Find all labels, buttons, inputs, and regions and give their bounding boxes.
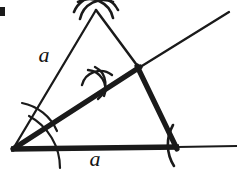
triangle-side-right-lower bbox=[137, 66, 177, 149]
base-line-extension bbox=[177, 146, 237, 147]
geometry-figure: a a bbox=[0, 0, 239, 172]
triangle-side-right-upper bbox=[96, 10, 139, 68]
angle-bisector-ray-extension bbox=[137, 12, 229, 69]
angle-bisector-segment bbox=[13, 67, 140, 149]
side-label-left: a bbox=[39, 42, 50, 67]
side-label-base: a bbox=[90, 146, 101, 171]
corner-speck bbox=[0, 7, 5, 16]
construction-drawing: a a bbox=[0, 0, 239, 172]
